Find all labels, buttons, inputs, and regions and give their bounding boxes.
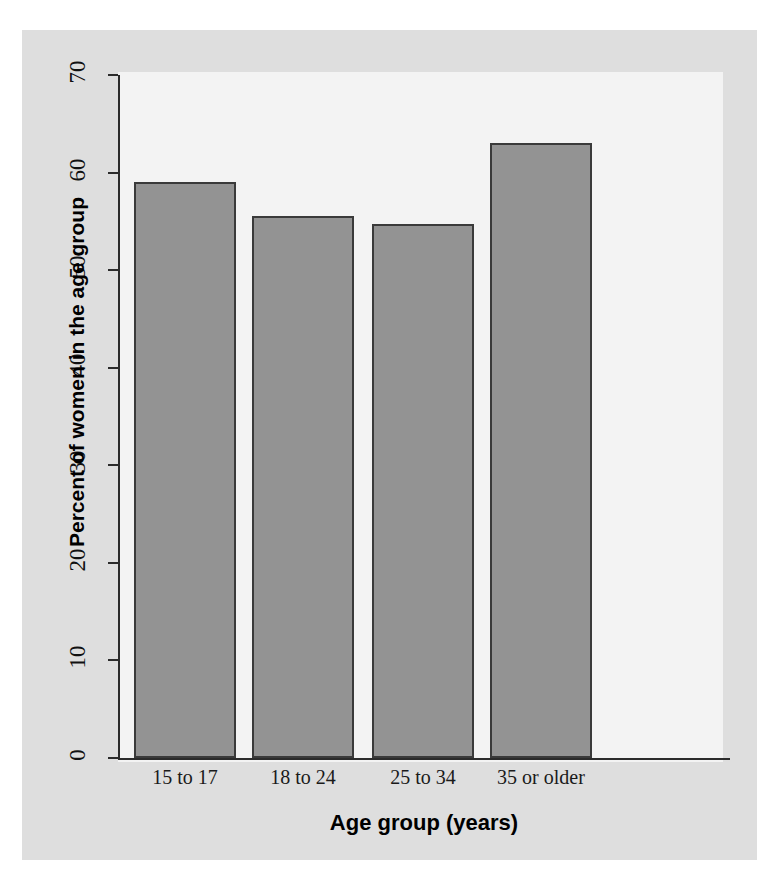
bar[interactable] — [372, 224, 474, 758]
x-axis-title: Age group (years) — [118, 810, 730, 836]
y-axis-title: Percent of women in the age group — [65, 62, 89, 682]
x-axis-tick-label: 35 or older — [470, 766, 612, 789]
bar[interactable] — [134, 182, 236, 758]
y-axis-tick — [108, 464, 118, 466]
y-axis-tick — [108, 367, 118, 369]
bar[interactable] — [252, 216, 354, 758]
y-axis-tick — [108, 562, 118, 564]
y-axis-tick — [108, 172, 118, 174]
y-axis-tick — [108, 269, 118, 271]
y-axis-line — [118, 75, 120, 759]
y-axis-tick — [108, 74, 118, 76]
y-axis-tick-label: 0 — [65, 725, 91, 785]
x-axis-line — [118, 758, 730, 760]
chart-figure: 010203040506070 15 to 1718 to 2425 to 34… — [22, 30, 757, 860]
y-axis-tick — [108, 659, 118, 661]
y-axis-tick — [108, 757, 118, 759]
bar[interactable] — [490, 143, 592, 758]
